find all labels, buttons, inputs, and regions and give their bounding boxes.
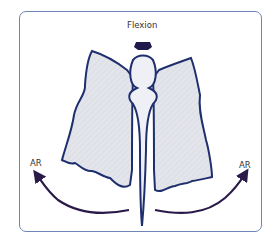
cap-icon xyxy=(134,42,152,50)
left-leaf xyxy=(62,51,133,187)
central-body xyxy=(129,56,157,227)
uterus-diagram xyxy=(0,0,276,244)
right-leaf xyxy=(153,58,212,191)
right-ar-label: AR xyxy=(239,160,251,170)
flexion-label: Flexion xyxy=(127,20,157,30)
left-ar-label: AR xyxy=(30,158,42,168)
